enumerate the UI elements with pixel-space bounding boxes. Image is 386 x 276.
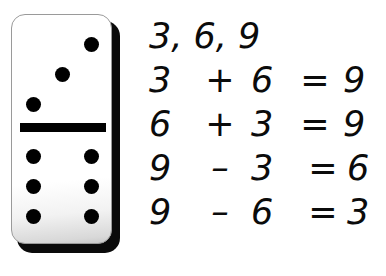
equation-4-operand-a: 9 [149, 190, 193, 234]
equation-4-operator: – [203, 190, 237, 234]
equation-row-2: 6 + 3 = 9 [147, 102, 379, 146]
equation-3-operand-a: 9 [149, 146, 193, 190]
domino-tile [11, 14, 112, 244]
equation-3-operand-b: 3 [251, 146, 295, 190]
domino-pip-top-2 [55, 67, 70, 82]
equation-row-4: 9 – 6 = 3 [147, 190, 379, 234]
equation-4-result: 3 [347, 190, 386, 234]
domino-pip-bottom-2 [84, 149, 99, 164]
domino-pip-bottom-5 [26, 209, 41, 224]
equation-2-operand-a: 6 [149, 102, 193, 146]
domino-pip-bottom-1 [26, 149, 41, 164]
domino-pip-top-3 [26, 97, 41, 112]
equation-3-result: 6 [347, 146, 386, 190]
fact-family-numbers-line: 3, 6, 9 [147, 14, 379, 58]
equation-3-equals: = [301, 146, 345, 190]
domino-divider-bar [20, 123, 106, 132]
equation-3-operator: – [203, 146, 237, 190]
equation-1-operand-b: 6 [251, 58, 295, 102]
equation-2-operator: + [203, 102, 237, 146]
equation-4-operand-b: 6 [251, 190, 295, 234]
equation-2-operand-b: 3 [251, 102, 295, 146]
equation-row-3: 9 – 3 = 6 [147, 146, 379, 190]
equation-2-equals: = [293, 102, 337, 146]
domino-pip-bottom-4 [84, 179, 99, 194]
domino-pip-bottom-6 [84, 209, 99, 224]
domino-illustration [10, 13, 122, 253]
domino-pip-bottom-3 [26, 179, 41, 194]
worksheet-canvas: 3, 6, 9 3 + 6 = 9 6 + 3 = 9 9 – 3 = 6 9 … [0, 0, 386, 276]
fact-family-numbers-text: 3, 6, 9 [149, 14, 260, 58]
equation-4-equals: = [301, 190, 345, 234]
equation-1-operator: + [203, 58, 237, 102]
domino-pip-top-1 [84, 37, 99, 52]
equation-1-operand-a: 3 [149, 58, 193, 102]
equation-row-1: 3 + 6 = 9 [147, 58, 379, 102]
fact-family-block: 3, 6, 9 3 + 6 = 9 6 + 3 = 9 9 – 3 = 6 9 … [147, 8, 379, 270]
equation-1-result: 9 [343, 58, 386, 102]
equation-2-result: 9 [343, 102, 386, 146]
equation-1-equals: = [293, 58, 337, 102]
